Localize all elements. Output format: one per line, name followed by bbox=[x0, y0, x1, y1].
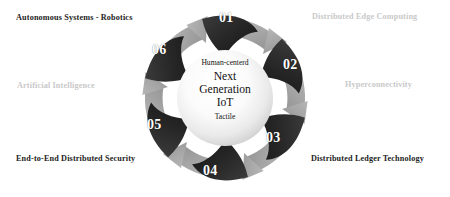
label-distributed-edge-computing: Distributed Edge Computing bbox=[312, 12, 417, 21]
label-artificial-intelligence: Artificial Intelligence bbox=[17, 81, 95, 90]
label-distributed-ledger-technology: Distributed Ledger Technology bbox=[311, 154, 424, 163]
label-autonomous-systems-robotics: Autonomous Systems - Robotics bbox=[16, 13, 132, 22]
diagram-canvas bbox=[0, 0, 450, 197]
label-hyperconnectivity: Hyperconnectivity bbox=[345, 80, 412, 89]
center-sphere bbox=[177, 50, 273, 146]
label-end-to-end-distributed-security: End-to-End Distributed Security bbox=[16, 154, 135, 163]
